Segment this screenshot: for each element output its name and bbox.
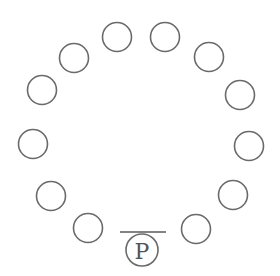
seat-circle — [19, 130, 48, 159]
seat-circle — [151, 23, 180, 52]
seat-circle — [103, 23, 132, 52]
seat-label-p: P — [135, 239, 150, 264]
seats-group — [19, 23, 264, 244]
seat-circle — [235, 132, 264, 161]
seat-circle — [219, 181, 248, 210]
seat-circle — [226, 81, 255, 110]
seat-circle — [37, 182, 66, 211]
seat-circle — [28, 76, 57, 105]
seating-diagram: P — [0, 0, 280, 276]
seat-circle — [182, 215, 211, 244]
seat-circle — [74, 214, 103, 243]
seat-circle — [60, 44, 89, 73]
seat-circle — [195, 43, 224, 72]
